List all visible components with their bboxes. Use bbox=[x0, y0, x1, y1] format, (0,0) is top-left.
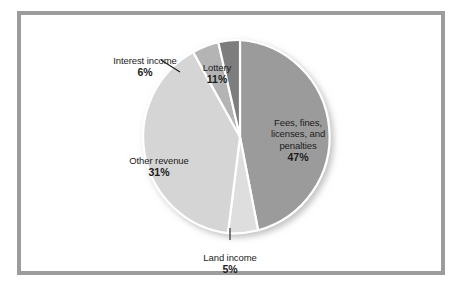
pie-label-other-revenue: Other revenue 31% bbox=[108, 143, 210, 190]
pie-label-text-fees: Fees, fines, licenses, and penalties bbox=[271, 117, 325, 151]
pie-label-text-interest-income: Interest income bbox=[113, 55, 176, 66]
pie-label-interest-income: Interest income 6% bbox=[92, 43, 198, 90]
pie-label-text-lottery: Lottery bbox=[203, 62, 231, 73]
pie-label-text-other-revenue: Other revenue bbox=[129, 155, 188, 166]
pie-label-text-land-income: Land income bbox=[203, 252, 256, 263]
pie-label-fees-fines-licenses-and-penalties: Fees, fines, licenses, and penalties 47% bbox=[254, 105, 342, 175]
figure-root: Fees, fines, licenses, and penalties 47%… bbox=[0, 0, 463, 294]
pie-label-percent-land-income: 5% bbox=[178, 263, 282, 276]
pie-label-percent-interest-income: 6% bbox=[92, 66, 198, 79]
pie-chart: Fees, fines, licenses, and penalties 47%… bbox=[0, 0, 463, 294]
pie-label-percent-other-revenue: 31% bbox=[108, 166, 210, 179]
pie-label-land-income: Land income 5% bbox=[178, 240, 282, 287]
pie-label-percent-fees: 47% bbox=[254, 151, 342, 164]
